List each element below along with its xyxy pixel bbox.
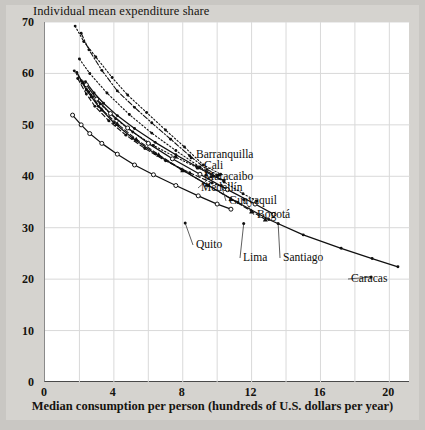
series-label-medelln: Medellín [201, 181, 243, 193]
y-tick-40: 40 [6, 169, 34, 184]
figure-frame: Individual mean expenditure share 010203… [0, 0, 425, 430]
chart-canvas [45, 22, 410, 382]
plot-area [44, 22, 409, 382]
x-tick-16: 16 [305, 385, 333, 400]
x-tick-0: 0 [30, 385, 58, 400]
x-tick-12: 12 [237, 385, 265, 400]
series-label-guayaquil: Guayaquil [229, 194, 277, 206]
y-tick-60: 60 [6, 66, 34, 81]
y-tick-70: 70 [6, 15, 34, 30]
series-label-santiago: Santiago [283, 251, 323, 263]
x-tick-8: 8 [168, 385, 196, 400]
x-tick-20: 20 [374, 385, 402, 400]
y-axis-title: Individual mean expenditure share [33, 4, 210, 19]
gridlines [45, 22, 410, 382]
y-tick-20: 20 [6, 272, 34, 287]
data-series [71, 25, 400, 269]
x-tick-4: 4 [99, 385, 127, 400]
x-axis-title: Median consumption per person (hundreds … [0, 399, 425, 414]
series-label-caracas: Caracas [351, 272, 387, 284]
series-label-lima: Lima [243, 251, 267, 263]
series-label-quito: Quito [196, 238, 222, 250]
series-label-bogot: Bogotá [257, 208, 290, 220]
y-tick-10: 10 [6, 324, 34, 339]
y-tick-30: 30 [6, 221, 34, 236]
y-tick-50: 50 [6, 118, 34, 133]
